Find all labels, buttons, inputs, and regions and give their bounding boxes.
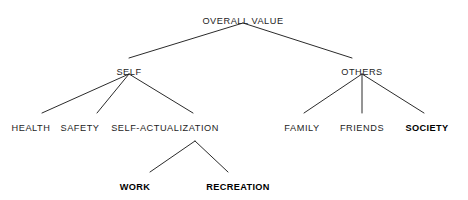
edge-actualization-work [150,141,195,172]
edge-actualization-rec [195,141,228,172]
tree-node-society: SOCIETY [406,123,449,134]
tree-node-recreation: RECREATION [206,182,270,193]
tree-node-work: WORK [120,182,151,193]
edge-overall-others [243,23,352,58]
tree-node-overall-value: OVERALL VALUE [202,16,283,27]
edge-self-actualization [129,74,193,113]
edge-overall-self [129,23,243,58]
edge-others-family [304,74,362,113]
tree-node-others: OTHERS [341,67,383,78]
tree-edge-layer [0,0,468,200]
edge-others-society [362,74,424,113]
edge-self-health [42,74,129,113]
tree-node-self-actualization: SELF-ACTUALIZATION [111,123,219,134]
edge-self-safety [97,74,129,113]
tree-node-friends: FRIENDS [340,123,384,134]
tree-node-family: FAMILY [284,123,319,134]
tree-node-safety: SAFETY [60,123,99,134]
hierarchy-tree-diagram: OVERALL VALUESELFOTHERSHEALTHSAFETYSELF-… [0,0,468,200]
tree-node-self: SELF [116,67,141,78]
tree-node-health: HEALTH [12,123,51,134]
